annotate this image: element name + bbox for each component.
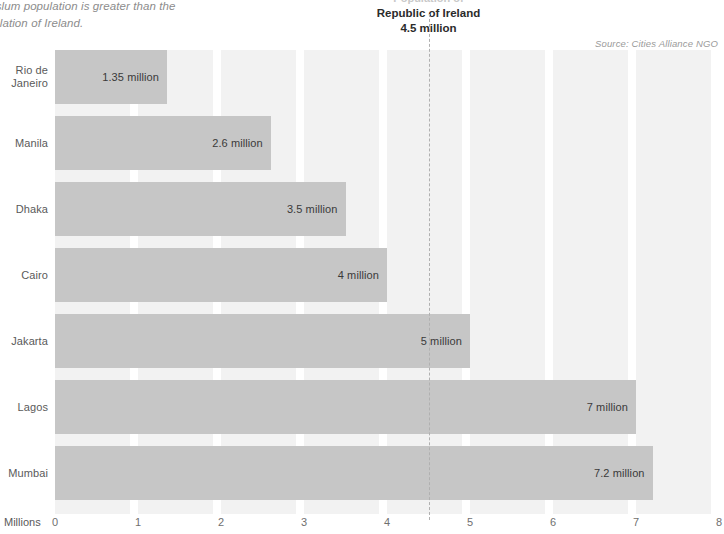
category-label: Manila <box>0 137 48 150</box>
bar-row: 7.2 million <box>55 446 719 500</box>
x-axis-title: Millions <box>4 516 41 528</box>
x-axis-tick: 6 <box>550 516 556 528</box>
bar[interactable]: 5 million <box>55 314 470 368</box>
chart-screenshot: arta's slum population is greater than t… <box>0 0 724 534</box>
x-axis-tick: 4 <box>384 516 390 528</box>
x-axis-tick: 8 <box>716 516 722 528</box>
bar-value-label: 7.2 million <box>594 467 645 479</box>
category-label-line: Mumbai <box>0 467 48 480</box>
category-label: Lagos <box>0 401 48 414</box>
bar[interactable]: 3.5 million <box>55 182 346 236</box>
bar-value-label: 3.5 million <box>287 203 338 215</box>
x-axis-tick: 3 <box>301 516 307 528</box>
category-label-line: Rio de <box>0 64 48 77</box>
category-label-line: Dhaka <box>0 203 48 216</box>
category-label: Cairo <box>0 269 48 282</box>
bar-row: 7 million <box>55 380 719 434</box>
category-label: Mumbai <box>0 467 48 480</box>
category-label-line: Janeiro <box>0 77 48 90</box>
category-label-line: Jakarta <box>0 335 48 348</box>
bar-value-label: 7 million <box>587 401 628 413</box>
bar-row: 2.6 million <box>55 116 719 170</box>
x-axis-tick: 1 <box>135 516 141 528</box>
bar-row: 1.35 million <box>55 50 719 104</box>
x-axis-tick: 7 <box>633 516 639 528</box>
intro-line-2: e population of Ireland. <box>0 15 224 32</box>
category-label: Jakarta <box>0 335 48 348</box>
bar-row: 4 million <box>55 248 719 302</box>
x-axis-tick: 0 <box>52 516 58 528</box>
bar-value-label: 2.6 million <box>212 137 263 149</box>
category-label: Rio deJaneiro <box>0 64 48 90</box>
source-attribution: Source: Cities Alliance NGO <box>595 38 718 49</box>
bar[interactable]: 2.6 million <box>55 116 271 170</box>
plot-area: 1.35 million2.6 million3.5 million4 mill… <box>55 50 719 514</box>
bar[interactable]: 7.2 million <box>55 446 653 500</box>
category-label-line: Lagos <box>0 401 48 414</box>
bar[interactable]: 7 million <box>55 380 636 434</box>
x-axis-tick: 2 <box>218 516 224 528</box>
bar-row: 5 million <box>55 314 719 368</box>
x-axis-tick: 5 <box>467 516 473 528</box>
bar[interactable]: 4 million <box>55 248 387 302</box>
bar-row: 3.5 million <box>55 182 719 236</box>
intro-annotation: arta's slum population is greater than t… <box>0 0 224 32</box>
bar-value-label: 5 million <box>421 335 462 347</box>
bar-value-label: 4 million <box>338 269 379 281</box>
bar[interactable]: 1.35 million <box>55 50 167 104</box>
category-label: Dhaka <box>0 203 48 216</box>
bar-value-label: 1.35 million <box>102 71 159 83</box>
category-label-line: Cairo <box>0 269 48 282</box>
intro-line-1: arta's slum population is greater than t… <box>0 0 224 15</box>
category-label-line: Manila <box>0 137 48 150</box>
reference-line <box>429 14 430 520</box>
